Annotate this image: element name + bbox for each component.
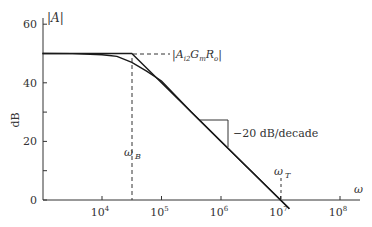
axes [43,18,360,200]
x-tick-label: 107 [269,205,287,219]
gain-label: |Ai2GmRo| [172,48,222,63]
y-axis-unit: dB [9,112,22,127]
x-ticks: 104105106107108 [91,196,347,219]
y-axis-title: |A| [47,11,64,25]
x-tick-label: 106 [210,205,229,219]
bode-magnitude-chart: 0204060 104105106107108 |A| dB ω |Ai2GmR… [0,0,372,227]
y-tick-label: 40 [23,77,37,90]
x-tick-label: 105 [150,205,168,219]
y-tick-label: 20 [23,135,37,148]
y-tick-label: 0 [30,194,37,207]
omega-t-label: ωT [274,165,291,180]
x-axis-symbol: ω [354,183,363,196]
omega-b-label: ωB [124,146,141,161]
chart-canvas: 0204060 104105106107108 |A| dB ω |Ai2GmR… [0,0,372,227]
slope-label: −20 dB/decade [233,127,318,140]
y-tick-label: 60 [23,18,37,31]
x-tick-label: 108 [329,205,347,219]
x-tick-label: 104 [91,205,110,219]
